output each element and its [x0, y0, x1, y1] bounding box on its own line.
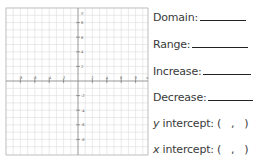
- y-tick-label: 8: [81, 21, 84, 25]
- x-tick-label: 6: [120, 76, 123, 80]
- y-tick-label: 4: [81, 50, 84, 54]
- domain-label: Domain:: [153, 11, 198, 24]
- x-tick-label: -6: [33, 76, 37, 80]
- grid-lines: [6, 8, 148, 155]
- x-intercept-question: x intercept: ( , ): [153, 143, 248, 156]
- y-axis-label: y: [80, 10, 84, 15]
- x-tick-label: 8: [134, 76, 137, 80]
- increase-question: Increase:: [153, 65, 251, 78]
- coordinate-grid: -8 -6 -4 -2 2 4 6 8 8 6 4 2 -2 -4 -6 -8 …: [0, 0, 152, 161]
- range-label: Range:: [153, 38, 190, 51]
- y-tick-label: -4: [81, 109, 85, 113]
- x-axis-label: x: [146, 75, 149, 80]
- y-tick-label: 2: [81, 65, 83, 69]
- y-tick-label: -2: [81, 94, 85, 98]
- x-tick-label: -8: [19, 76, 23, 80]
- range-question: Range:: [153, 38, 248, 51]
- y-tick-label: -8: [81, 138, 85, 142]
- decrease-question: Decrease:: [153, 91, 253, 104]
- y-tick-label: 6: [81, 36, 84, 40]
- decrease-label: Decrease:: [153, 91, 206, 104]
- question-list: Domain: Range: Increase: Decrease: y int…: [153, 0, 258, 161]
- y-intercept-label: intercept: ( , ): [159, 117, 248, 130]
- range-answer-blank[interactable]: [192, 38, 248, 48]
- increase-answer-blank[interactable]: [203, 65, 251, 75]
- domain-question: Domain:: [153, 11, 246, 24]
- x-intercept-label: intercept: ( , ): [159, 143, 248, 156]
- increase-label: Increase:: [153, 65, 201, 78]
- x-tick-label: -2: [62, 76, 66, 80]
- x-tick-label: 2: [91, 76, 93, 80]
- y-tick-label: -6: [81, 123, 85, 127]
- decrease-answer-blank[interactable]: [208, 91, 253, 101]
- x-tick-label: 4: [106, 76, 109, 80]
- x-tick-label: -4: [47, 76, 51, 80]
- domain-answer-blank[interactable]: [200, 11, 246, 21]
- y-intercept-question: y intercept: ( , ): [153, 117, 248, 130]
